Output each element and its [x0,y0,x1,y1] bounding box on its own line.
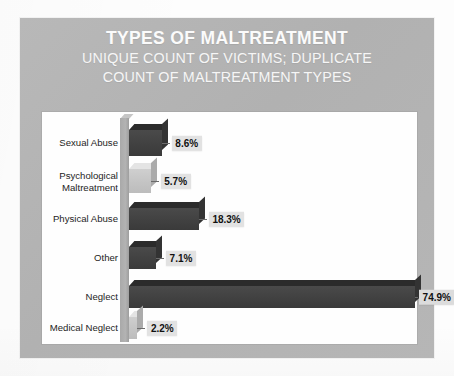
category-label-line: Medical Neglect [42,322,118,334]
chart-screenshot: TYPES OF MALTREATMENT UNIQUE COUNT OF VI… [0,0,454,376]
bar-front-face [129,286,415,308]
page-caption [228,363,440,372]
value-leader-line [137,328,145,329]
category-label-line: Physical Abuse [42,213,118,225]
category-label: Sexual Abuse [42,137,118,149]
category-label: Other [42,252,118,264]
bar [129,208,199,230]
chart-subtitle-line-1: UNIQUE COUNT OF VICTIMS; DUPLICATE [82,49,372,68]
value-label: 7.1% [166,251,196,266]
bar-front-face [129,130,162,156]
category-label-line: Sexual Abuse [42,137,118,149]
value-label: 18.3% [209,212,244,227]
category-label-line: Neglect [42,291,118,303]
category-label-line: Other [42,252,118,264]
category-label: Physical Abuse [42,213,118,225]
value-leader-line [156,258,164,259]
bar [129,169,151,193]
value-leader-line [415,297,418,298]
plot-inner: Sexual Abuse8.6%PsychologicalMaltreatmen… [42,112,417,344]
bar [129,286,415,308]
bar-front-face [129,317,137,339]
value-label: 74.9% [419,290,454,305]
value-leader-line [162,143,170,144]
bar [129,247,156,269]
plot-area: Sexual Abuse8.6%PsychologicalMaltreatmen… [42,112,417,344]
category-label-line: Psychological [42,170,118,182]
chart-title: TYPES OF MALTREATMENT [106,27,348,49]
chart-card: TYPES OF MALTREATMENT UNIQUE COUNT OF VI… [20,18,434,358]
chart-title-band: TYPES OF MALTREATMENT UNIQUE COUNT OF VI… [20,18,434,112]
bar-front-face [129,169,151,193]
bar-front-face [129,208,199,230]
category-label: PsychologicalMaltreatment [42,170,118,193]
axis-wall [120,118,129,342]
category-label-line: Maltreatment [42,182,118,194]
chart-subtitle-line-2: COUNT OF MALTREATMENT TYPES [103,68,352,87]
bar-side-face [151,158,157,187]
bar [129,130,162,156]
value-label: 5.7% [161,174,191,189]
bar-front-face [129,247,156,269]
bar-side-face [162,119,168,150]
category-label: Medical Neglect [42,322,118,334]
category-label: Neglect [42,291,118,303]
value-label: 8.6% [172,136,202,151]
value-label: 2.2% [147,321,177,336]
value-leader-line [199,219,207,220]
value-leader-line [151,181,159,182]
bar [129,317,137,339]
